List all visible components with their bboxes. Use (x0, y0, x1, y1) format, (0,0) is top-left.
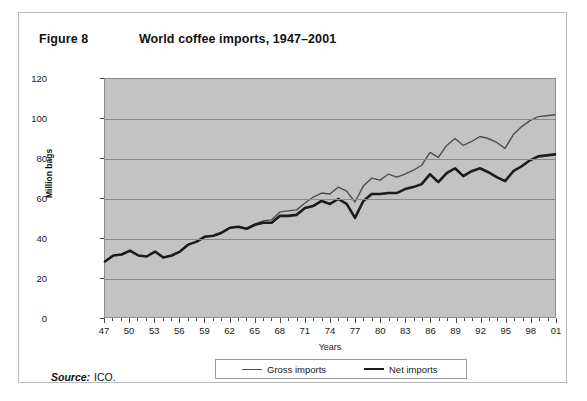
legend-label-net: Net imports (389, 364, 438, 375)
x-axis-tick-label: 59 (199, 325, 210, 336)
x-axis-tick-label: 62 (224, 325, 235, 336)
y-axis-tick-label: 0 (7, 313, 47, 324)
x-axis-tick (464, 318, 465, 321)
plot-area (104, 78, 556, 318)
x-axis-tick (489, 318, 490, 321)
legend-item-gross-imports: Gross imports (242, 363, 326, 377)
x-axis-tick (506, 318, 507, 323)
x-axis-tick-label: 83 (400, 325, 411, 336)
x-axis-tick-label: 56 (174, 325, 185, 336)
y-axis-tick-label: 20 (7, 273, 47, 284)
chart: Million bags 020406080100120 47505356596… (49, 61, 561, 351)
figure-title: World coffee imports, 1947–2001 (139, 32, 336, 46)
x-axis-tick-label: 77 (350, 325, 361, 336)
x-axis-tick-label: 50 (124, 325, 135, 336)
source-value: ICO. (94, 371, 116, 383)
y-axis-tick-label: 80 (7, 153, 47, 164)
x-axis-tick-label: 53 (149, 325, 160, 336)
y-axis-tick-label: 60 (7, 193, 47, 204)
x-axis-tick (196, 318, 197, 321)
chart-legend: Gross imports Net imports (215, 359, 467, 379)
gridline (105, 239, 555, 240)
x-axis-tick-label: 47 (99, 325, 110, 336)
x-axis-tick (472, 318, 473, 321)
x-axis-tick (121, 318, 122, 321)
source-label: Source: (51, 371, 90, 383)
x-axis-tick (146, 318, 147, 321)
x-axis-tick-label: 65 (249, 325, 260, 336)
x-axis-tick (271, 318, 272, 321)
x-axis-tick (154, 318, 155, 323)
x-axis-tick (163, 318, 164, 321)
source-note: Source:ICO. (51, 371, 116, 383)
x-axis-tick-label: 89 (450, 325, 461, 336)
x-axis-tick-label: 71 (300, 325, 311, 336)
x-axis-tick (238, 318, 239, 321)
x-axis-tick (104, 318, 105, 323)
gridline (105, 199, 555, 200)
x-axis-tick (213, 318, 214, 321)
legend-label-gross: Gross imports (267, 364, 326, 375)
figure-number: Figure 8 (39, 32, 88, 46)
x-axis-tick (347, 318, 348, 321)
x-axis-tick (288, 318, 289, 321)
x-axis-tick (430, 318, 431, 323)
x-axis-tick (129, 318, 130, 323)
x-axis-tick (548, 318, 549, 321)
x-axis-tick (305, 318, 306, 323)
x-axis-tick (481, 318, 482, 323)
line-net-imports (105, 154, 555, 261)
x-axis-tick (246, 318, 247, 321)
x-axis-tick (531, 318, 532, 323)
x-axis-tick-label: 92 (475, 325, 486, 336)
x-axis-tick (188, 318, 189, 321)
x-axis-tick-label: 98 (526, 325, 537, 336)
y-axis-tick-label: 40 (7, 233, 47, 244)
x-axis-tick (405, 318, 406, 323)
x-axis-tick (171, 318, 172, 321)
x-axis-tick (422, 318, 423, 321)
x-axis-tick (397, 318, 398, 321)
x-axis-tick (414, 318, 415, 321)
x-axis-tick (338, 318, 339, 321)
x-axis-tick (456, 318, 457, 323)
gridline (105, 159, 555, 160)
x-axis-tick (255, 318, 256, 323)
x-axis-tick-label: 86 (425, 325, 436, 336)
x-axis-tick-label: 95 (500, 325, 511, 336)
x-axis-tick (372, 318, 373, 321)
figure-header: Figure 8 World coffee imports, 1947–2001 (39, 29, 539, 51)
x-axis-tick (112, 318, 113, 321)
x-axis-tick-label: 68 (274, 325, 285, 336)
x-axis-tick (389, 318, 390, 321)
x-axis-tick (137, 318, 138, 321)
figure-container: Figure 8 World coffee imports, 1947–2001… (18, 12, 567, 383)
gridline (105, 279, 555, 280)
x-axis-tick-label: 80 (375, 325, 386, 336)
x-axis-tick (230, 318, 231, 323)
x-axis-tick (280, 318, 281, 323)
x-axis-tick (355, 318, 356, 323)
x-axis-tick (297, 318, 298, 321)
legend-item-net-imports: Net imports (364, 363, 438, 377)
x-axis-tick (380, 318, 381, 323)
y-axis-tick-label: 120 (7, 73, 47, 84)
legend-swatch-gross-icon (242, 369, 262, 370)
x-axis-tick (514, 318, 515, 321)
x-axis-tick (439, 318, 440, 321)
x-axis-tick (313, 318, 314, 321)
x-axis-tick (539, 318, 540, 321)
legend-swatch-net-icon (364, 368, 384, 370)
x-axis-tick-label: 01 (551, 325, 562, 336)
x-axis-title: Years (104, 342, 556, 352)
x-axis-tick (179, 318, 180, 323)
x-axis-tick (330, 318, 331, 323)
x-axis-tick (322, 318, 323, 321)
x-axis-tick (221, 318, 222, 321)
x-axis-tick (556, 318, 557, 323)
x-axis-tick (523, 318, 524, 321)
x-axis-tick (263, 318, 264, 321)
x-axis-tick (363, 318, 364, 321)
x-axis-tick (447, 318, 448, 321)
x-axis-tick-label: 74 (325, 325, 336, 336)
